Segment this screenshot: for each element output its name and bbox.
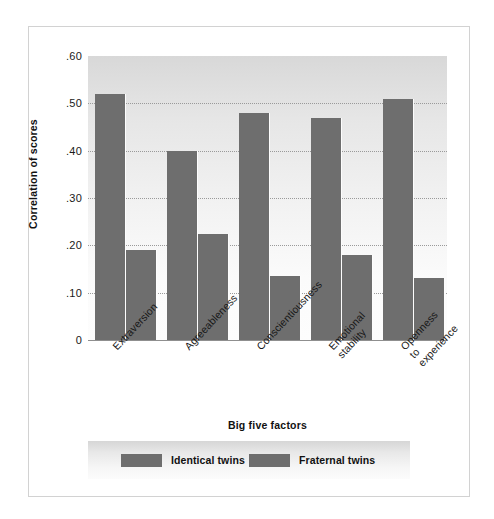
- x-axis-ticks: ExtraversionAgreeablenessConscientiousne…: [88, 340, 468, 420]
- legend-label: Identical twins: [171, 454, 245, 466]
- legend-entry: Fraternal twins: [249, 441, 375, 479]
- legend-swatch: [121, 454, 162, 467]
- chart-legend: Identical twinsFraternal twins: [88, 441, 410, 479]
- legend-entry: Identical twins: [121, 441, 245, 479]
- bar: [95, 94, 126, 340]
- y-axis-tick-label: .60: [28, 50, 82, 62]
- plot-area: [88, 56, 447, 340]
- bar: [311, 118, 342, 340]
- bar: [383, 99, 414, 340]
- bar: [167, 151, 198, 340]
- y-axis-tick-label: 0: [28, 334, 82, 346]
- legend-swatch: [249, 454, 290, 467]
- y-axis-title: Correlation of scores: [27, 79, 39, 269]
- x-axis-title: Big five factors: [88, 419, 447, 431]
- legend-label: Fraternal twins: [299, 454, 375, 466]
- chart-figure: .60.50.40.30.20.100 Correlation of score…: [0, 0, 494, 519]
- y-axis-tick-label: .10: [28, 287, 82, 299]
- bar: [239, 113, 270, 340]
